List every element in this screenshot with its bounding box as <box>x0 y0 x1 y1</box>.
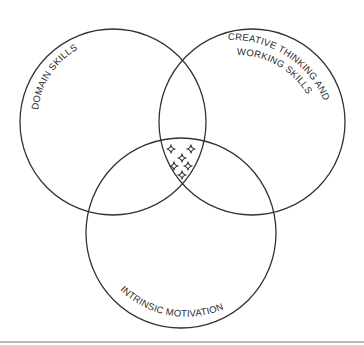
star-icon <box>178 171 187 180</box>
domain-skills-label: DOMAIN SKILLS <box>29 41 79 110</box>
star-icon <box>167 145 176 154</box>
star-icon <box>187 145 196 154</box>
bottom-rule <box>0 341 364 343</box>
intrinsic-motivation-circle <box>86 138 276 328</box>
star-icon <box>170 162 179 171</box>
domain-skills-circle <box>20 29 206 215</box>
venn-diagram: DOMAIN SKILLS CREATIVE THINKING AND WORK… <box>0 0 364 345</box>
intersection-star-marks <box>167 145 196 180</box>
intrinsic-motivation-label: INTRINSIC MOTIVATION <box>119 283 225 318</box>
star-icon <box>184 162 193 171</box>
star-icon <box>178 154 187 163</box>
